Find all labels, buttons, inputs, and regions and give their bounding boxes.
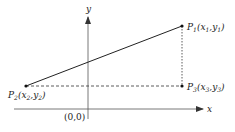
point-p3 [180, 84, 183, 87]
coordinate-diagram: y x (0,0) P1(x1,y1) P2(x2,y2) P3(x3,y3) [0, 0, 235, 132]
x-axis-label: x [207, 104, 212, 114]
point-p1-label: P1(x1,y1) [186, 22, 225, 33]
point-p2 [24, 84, 27, 87]
point-p1 [180, 24, 183, 27]
origin-label: (0,0) [64, 112, 85, 122]
point-p2-label: P2(x2,y2) [7, 90, 46, 101]
y-axis-label: y [85, 4, 92, 14]
point-p3-label: P3(x3,y3) [186, 82, 225, 93]
segment-p2-p1 [26, 26, 182, 86]
